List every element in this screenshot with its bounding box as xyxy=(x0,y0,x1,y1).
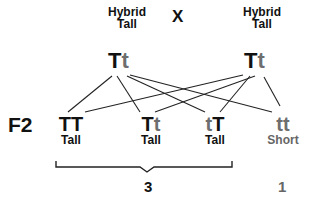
offspring-Tt: Tt Tall xyxy=(135,114,167,146)
allele: T xyxy=(71,113,83,135)
phenotype-label: Tall xyxy=(135,134,167,146)
left-parent-genotype: Tt xyxy=(108,50,129,72)
allele: t xyxy=(276,113,283,135)
right-parent-label: Hybrid Tall xyxy=(232,6,292,30)
phenotype-label: Short xyxy=(261,134,305,146)
dominant-allele: T xyxy=(244,48,257,73)
cross-symbol: X xyxy=(172,7,183,27)
right-parent-genotype: Tt xyxy=(244,50,265,72)
offspring-tt: tt Short xyxy=(261,114,305,146)
offspring-TT: TT Tall xyxy=(55,114,87,146)
left-parent-phenotype: Tall xyxy=(97,18,157,30)
allele: T xyxy=(142,113,154,135)
phenotype-label: Tall xyxy=(199,134,231,146)
generation-label: F2 xyxy=(8,113,33,137)
offspring-tT: tT Tall xyxy=(199,114,231,146)
recessive-allele: t xyxy=(257,48,264,73)
left-parent-label: Hybrid Tall xyxy=(97,6,157,30)
allele: t xyxy=(154,113,161,135)
allele: t xyxy=(283,113,290,135)
allele: T xyxy=(59,113,71,135)
right-parent-phenotype: Tall xyxy=(232,18,292,30)
allele: T xyxy=(212,113,224,135)
recessive-allele: t xyxy=(121,48,128,73)
recessive-count: 1 xyxy=(278,178,286,195)
dominant-count: 3 xyxy=(144,178,152,195)
dominant-allele: T xyxy=(108,48,121,73)
phenotype-label: Tall xyxy=(55,134,87,146)
monohybrid-cross-diagram: Hybrid Tall X Hybrid Tall Tt Tt F2 TT Ta… xyxy=(0,0,311,206)
